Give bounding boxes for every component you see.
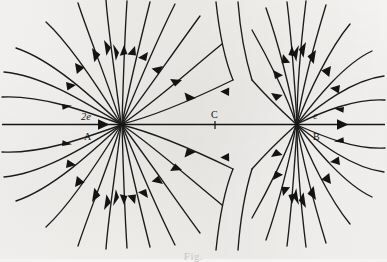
label-neutral-point: C: [211, 109, 218, 120]
horizontal-axis: [2, 119, 385, 130]
separatrix-curves: [216, 2, 252, 250]
label-charge-right-magnitude: e: [313, 110, 318, 121]
label-charge-right-point: B: [313, 131, 320, 142]
figure-caption: Fig.: [0, 250, 387, 262]
label-charge-left-point: A: [84, 131, 92, 142]
label-charge-left-magnitude: 2e: [81, 111, 91, 122]
